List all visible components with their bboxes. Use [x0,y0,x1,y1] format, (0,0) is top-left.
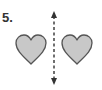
line-of-symmetry-arrow-icon [51,11,57,85]
left-heart-icon [16,35,46,64]
right-heart-icon [62,35,92,64]
symmetry-figure [0,0,102,90]
